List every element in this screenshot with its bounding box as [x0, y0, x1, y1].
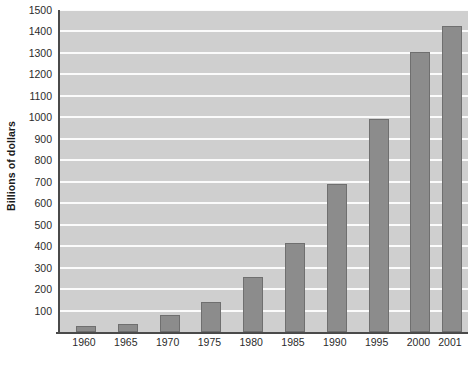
- x-axis-tick: 1985: [281, 336, 304, 348]
- gridline: [60, 10, 468, 11]
- y-axis-tick: 1000: [29, 111, 52, 123]
- bar-chart: Billions of dollars 15001400130012001100…: [0, 0, 472, 367]
- x-axis-line: [56, 332, 468, 334]
- gridline: [60, 267, 468, 269]
- bar[interactable]: [160, 315, 180, 332]
- bar[interactable]: [118, 324, 138, 332]
- gridline: [60, 224, 468, 226]
- y-axis-tick: 1300: [29, 47, 52, 59]
- y-axis-tick: 600: [34, 197, 52, 209]
- gridline: [60, 202, 468, 204]
- y-axis-tick: 1100: [29, 90, 52, 102]
- y-axis-tick: 200: [34, 283, 52, 295]
- x-axis-tick: 1965: [114, 336, 137, 348]
- y-axis-tick: 900: [34, 133, 52, 145]
- x-axis-tick: 1980: [240, 336, 263, 348]
- gridline: [60, 52, 468, 54]
- y-axis-tick-labels: 1500140013001200110010009008007006005004…: [22, 0, 56, 340]
- x-axis-tick: 1960: [72, 336, 95, 348]
- y-axis-title-label: Billions of dollars: [5, 121, 17, 211]
- x-axis-tick-labels: 1960196519701975198019851990199520002001: [58, 336, 466, 354]
- y-axis-tick: 300: [34, 262, 52, 274]
- y-axis-tick: 1200: [29, 68, 52, 80]
- gridline: [60, 159, 468, 161]
- gridline: [60, 95, 468, 97]
- y-axis-tick: 1500: [29, 4, 52, 16]
- x-axis-tick: 1975: [198, 336, 221, 348]
- gridline: [60, 181, 468, 183]
- x-axis-tick: 1970: [156, 336, 179, 348]
- bar[interactable]: [285, 243, 305, 332]
- gridline: [60, 116, 468, 118]
- gridline: [60, 288, 468, 290]
- y-axis-tick: 100: [34, 305, 52, 317]
- x-axis-tick: 2001: [438, 336, 461, 348]
- bar[interactable]: [369, 119, 389, 332]
- y-axis-tick: 800: [34, 154, 52, 166]
- gridline: [60, 245, 468, 247]
- bar[interactable]: [327, 184, 347, 332]
- y-axis-tick: 1400: [29, 25, 52, 37]
- gridline: [60, 73, 468, 75]
- x-axis-tick: 2000: [407, 336, 430, 348]
- x-axis-tick: 1995: [365, 336, 388, 348]
- bar[interactable]: [201, 302, 221, 332]
- bar[interactable]: [410, 52, 430, 332]
- plot-area: [58, 10, 468, 332]
- y-axis-tick: 700: [34, 176, 52, 188]
- gridline: [60, 30, 468, 32]
- x-axis-tick: 1990: [323, 336, 346, 348]
- gridline: [60, 310, 468, 312]
- y-axis-tick: 400: [34, 240, 52, 252]
- bar[interactable]: [243, 277, 263, 332]
- y-axis-title: Billions of dollars: [0, 0, 22, 332]
- bar[interactable]: [442, 26, 462, 332]
- y-axis-tick: 500: [34, 219, 52, 231]
- gridline: [60, 138, 468, 140]
